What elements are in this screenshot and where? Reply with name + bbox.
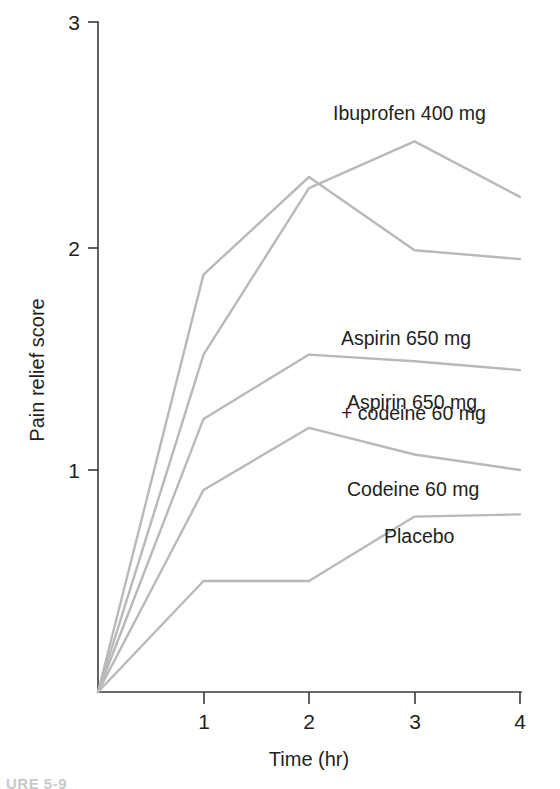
y-axis-title: Pain relief score xyxy=(26,298,48,441)
series-label-ibuprofen-400-mg: Ibuprofen 400 mg xyxy=(333,101,486,126)
x-tick-label-4: 4 xyxy=(514,710,526,733)
y-tick-label-2: 2 xyxy=(68,237,80,260)
series-label-text: Ibuprofen 400 mg xyxy=(333,102,486,124)
series-label-text: Placebo xyxy=(384,525,454,547)
series-label-text: Codeine 60 mg xyxy=(347,478,479,500)
x-tick-label-1: 1 xyxy=(198,710,210,733)
x-axis-title: Time (hr) xyxy=(269,748,349,770)
x-tick-label-2: 2 xyxy=(303,710,315,733)
series-label-text: Aspirin 650 mg xyxy=(347,391,477,413)
series-label-aspirin-codeine: Aspirin 650 mg + codeine 60 mg xyxy=(341,276,486,476)
y-tick-label-3: 3 xyxy=(68,11,80,34)
series-label-text-line1: Aspirin 650 mg xyxy=(341,326,486,351)
series-label-aspirin-650-mg: Aspirin 650 mg xyxy=(347,390,477,415)
series-label-codeine-60-mg: Codeine 60 mg xyxy=(347,477,479,502)
figure-caption: URE 5-9 xyxy=(6,775,67,789)
series-line-placebo xyxy=(98,514,520,692)
figure-container: 3 2 1 1 2 3 4 Time (hr) Pain relief scor… xyxy=(0,0,560,789)
x-tick-label-3: 3 xyxy=(409,710,421,733)
y-tick-label-1: 1 xyxy=(68,459,80,482)
series-label-placebo: Placebo xyxy=(384,524,454,549)
